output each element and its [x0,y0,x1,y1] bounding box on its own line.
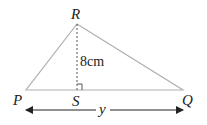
right-angle-marker [77,84,82,90]
vertex-label-p: P [12,92,22,108]
base-measure-label: y [97,101,106,117]
triangle-diagram: R P S Q 8cm y [0,0,207,125]
triangle-pqr [26,24,183,90]
height-measure-label: 8cm [80,54,104,69]
vertex-label-r: R [70,6,80,22]
vertex-label-q: Q [182,92,193,108]
vertex-label-s: S [72,93,80,109]
